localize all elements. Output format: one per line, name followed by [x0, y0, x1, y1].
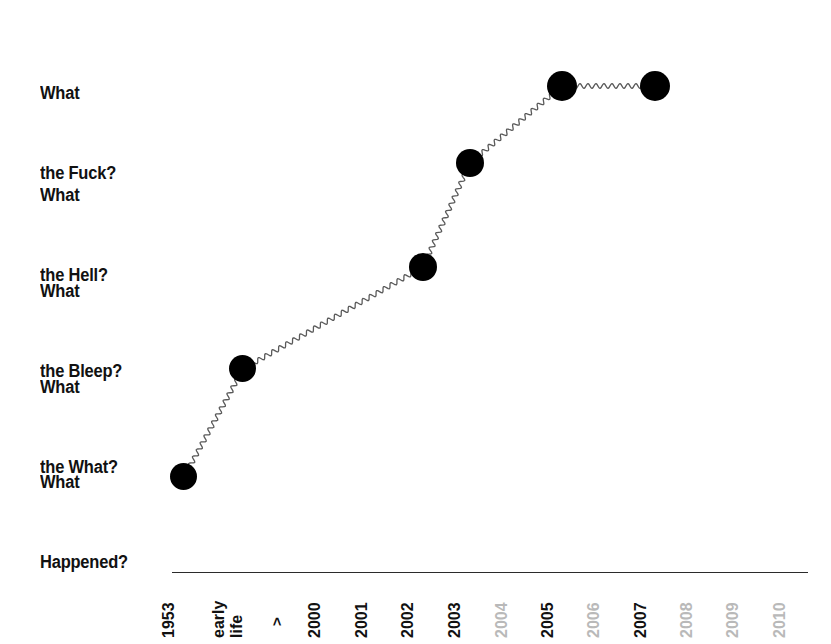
- y-axis-label-line1: What: [40, 184, 108, 207]
- x-axis-tick-2009: 2009: [725, 602, 741, 638]
- y-axis-label-line1: What: [40, 376, 118, 399]
- x-axis-tick-2006: 2006: [586, 602, 602, 638]
- x-axis-tick-2007: 2007: [633, 602, 649, 638]
- data-point-marker: [170, 463, 197, 490]
- x-axis-tick-life: life: [229, 615, 245, 638]
- y-axis-label-line2: Happened?: [40, 551, 128, 574]
- x-axis-tick-arrow: >: [269, 617, 284, 626]
- data-point-marker: [640, 71, 670, 101]
- x-axis-tick-2004: 2004: [494, 602, 510, 638]
- x-axis-tick-1953: 1953: [161, 602, 177, 638]
- x-axis-tick-early: early: [211, 601, 227, 638]
- data-point-marker: [409, 253, 437, 281]
- x-axis-tick-2008: 2008: [679, 602, 695, 638]
- x-axis-tick-2005: 2005: [540, 602, 556, 638]
- x-axis-tick-2000: 2000: [307, 602, 323, 638]
- x-axis-tick-2002: 2002: [400, 602, 416, 638]
- y-axis-label-what-happened: What Happened?: [40, 425, 128, 620]
- data-point-marker: [547, 71, 577, 101]
- x-axis-line: [172, 572, 808, 573]
- chart-canvas: What the Fuck? What the Hell? What the B…: [0, 0, 831, 644]
- data-point-marker: [456, 149, 484, 177]
- y-axis-label-line1: What: [40, 471, 128, 494]
- y-axis-label-line1: What: [40, 280, 122, 303]
- x-axis-tick-2001: 2001: [354, 602, 370, 638]
- y-axis-label-line1: What: [40, 82, 116, 105]
- data-point-marker: [229, 355, 256, 382]
- x-axis-tick-2003: 2003: [447, 602, 463, 638]
- x-axis-tick-2010: 2010: [772, 602, 788, 638]
